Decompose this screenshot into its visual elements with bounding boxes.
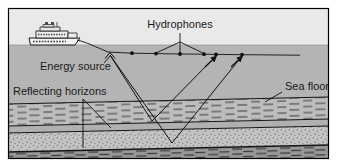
sea-floor-label: Sea floor — [285, 80, 329, 92]
hydrophone-receiver-dot — [214, 53, 218, 57]
diagram-canvas: Hydrophones Energy source Reflecting hor… — [0, 0, 337, 167]
hydrophones-label: Hydrophones — [147, 18, 213, 30]
hydrophone-dot — [130, 51, 134, 55]
seismic-survey-diagram: Hydrophones Energy source Reflecting hor… — [0, 0, 337, 167]
energy-source-label: Energy source — [40, 60, 111, 72]
scene: Hydrophones Energy source Reflecting hor… — [8, 8, 329, 159]
reflecting-horizons-label: Reflecting horizons — [13, 85, 107, 97]
